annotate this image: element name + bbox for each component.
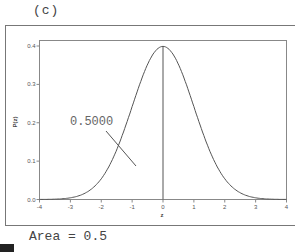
svg-text:3: 3	[254, 204, 258, 210]
svg-text:2: 2	[223, 204, 227, 210]
chart: 0.00.10.20.30.4 -4-3-2-101234 0.5000 z P…	[0, 0, 295, 252]
svg-text:0.0: 0.0	[27, 197, 36, 203]
svg-text:-1: -1	[129, 204, 135, 210]
svg-text:-4: -4	[37, 204, 43, 210]
svg-text:0.3: 0.3	[27, 81, 36, 87]
svg-text:0: 0	[161, 204, 165, 210]
svg-text:0.2: 0.2	[27, 120, 36, 126]
svg-text:1: 1	[192, 204, 196, 210]
clipped-text-fragment	[0, 244, 14, 252]
y-axis: 0.00.10.20.30.4	[27, 43, 39, 203]
annotation-pointer	[106, 131, 136, 166]
x-axis: -4-3-2-101234	[37, 200, 289, 210]
area-caption: Area = 0.5	[29, 229, 107, 244]
area-value-label: 0.5000	[70, 115, 113, 129]
svg-text:0.4: 0.4	[27, 43, 36, 49]
svg-text:-2: -2	[99, 204, 105, 210]
svg-text:4: 4	[285, 204, 289, 210]
x-axis-label: z	[161, 212, 164, 218]
svg-text:0.1: 0.1	[27, 158, 36, 164]
y-axis-label: P(z)	[12, 117, 18, 128]
svg-text:-3: -3	[68, 204, 74, 210]
